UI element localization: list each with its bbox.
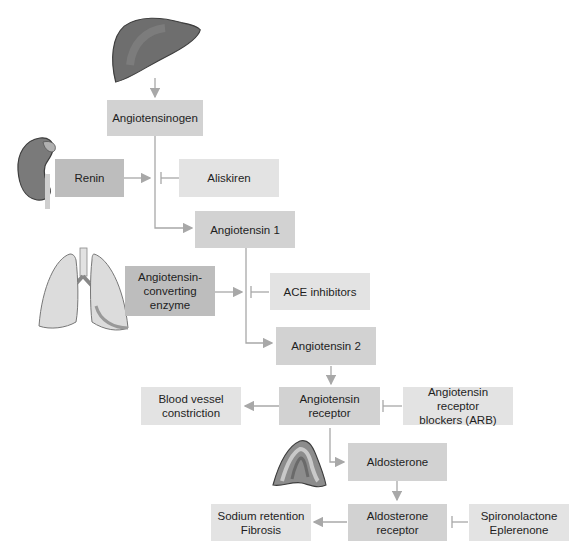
node-aldosterone-receptor: Aldosterone receptor xyxy=(348,504,447,541)
node-sodium-retention-fibrosis: Sodium retention Fibrosis xyxy=(211,504,311,541)
node-angiotensinogen: Angiotensinogen xyxy=(107,100,203,136)
node-aldosterone: Aldosterone xyxy=(348,443,447,481)
node-spironolactone-eplerenone: Spironolactone Eplerenone xyxy=(469,504,569,541)
node-angiotensin-2: Angiotensin 2 xyxy=(276,327,376,365)
adrenal-gland-icon xyxy=(268,437,328,492)
node-renin: Renin xyxy=(55,159,124,197)
node-ace: Angiotensin- converting enzyme xyxy=(125,266,215,316)
node-arb: Angiotensin receptor blockers (ARB) xyxy=(403,387,513,425)
lungs-icon xyxy=(36,246,132,336)
node-angiotensin-receptor: Angiotensin receptor xyxy=(279,387,380,425)
node-ace-inhibitors: ACE inhibitors xyxy=(270,273,370,310)
liver-icon xyxy=(110,10,205,85)
kidney-icon xyxy=(15,134,60,209)
node-blood-vessel-constriction: Blood vessel constriction xyxy=(141,387,241,425)
node-aliskiren: Aliskiren xyxy=(179,159,279,197)
node-angiotensin-1: Angiotensin 1 xyxy=(195,211,295,248)
